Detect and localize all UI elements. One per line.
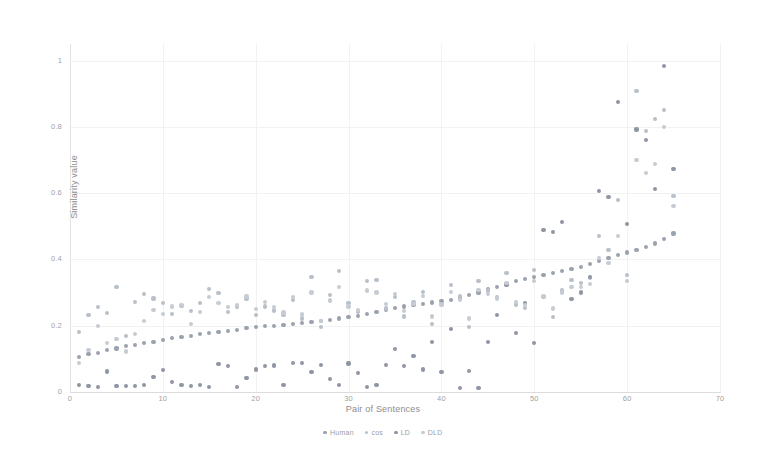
data-point-dld <box>124 349 128 353</box>
data-point-human <box>634 248 638 252</box>
data-point-dld <box>77 361 81 365</box>
data-point-human <box>467 293 471 297</box>
data-point-cos <box>569 278 573 282</box>
data-point-cos <box>77 330 81 334</box>
data-point-dld <box>541 294 545 298</box>
gridline-vertical <box>163 44 164 392</box>
data-point-ld <box>616 100 620 104</box>
legend-item-ld[interactable]: LD <box>394 429 410 436</box>
gridline-horizontal <box>70 326 720 327</box>
data-point-cos <box>393 295 397 299</box>
data-point-dld <box>235 303 239 307</box>
gridline-horizontal <box>70 259 720 260</box>
data-point-cos <box>411 300 415 304</box>
data-point-human <box>86 352 90 356</box>
data-point-ld <box>151 375 155 379</box>
legend-item-human[interactable]: Human <box>323 429 353 436</box>
data-point-cos <box>671 194 675 198</box>
legend-item-dld[interactable]: DLD <box>421 429 442 436</box>
data-point-ld <box>421 367 425 371</box>
data-point-ld <box>356 371 360 375</box>
x-axis-tick-label: 60 <box>612 394 642 403</box>
data-point-dld <box>560 290 564 294</box>
gridline-vertical <box>256 44 257 392</box>
gridline-vertical <box>441 44 442 392</box>
data-point-ld <box>365 385 369 389</box>
data-point-ld <box>514 331 518 335</box>
data-point-cos <box>597 234 601 238</box>
data-point-dld <box>374 290 378 294</box>
data-point-human <box>337 316 341 320</box>
data-point-human <box>124 344 128 348</box>
data-point-cos <box>170 312 174 316</box>
data-point-cos <box>402 314 406 318</box>
data-point-human <box>300 321 304 325</box>
data-point-cos <box>142 292 146 296</box>
data-point-dld <box>216 301 220 305</box>
data-point-human <box>226 329 230 333</box>
data-point-dld <box>514 300 518 304</box>
data-point-dld <box>179 303 183 307</box>
data-point-cos <box>653 117 657 121</box>
data-point-cos <box>486 288 490 292</box>
gridline-vertical <box>534 44 535 392</box>
data-point-dld <box>170 304 174 308</box>
data-point-cos <box>133 300 137 304</box>
data-point-cos <box>606 248 610 252</box>
data-point-dld <box>244 294 248 298</box>
data-point-ld <box>142 383 146 387</box>
data-point-cos <box>374 278 378 282</box>
data-point-ld <box>198 383 202 387</box>
data-point-human <box>235 328 239 332</box>
data-point-dld <box>198 310 202 314</box>
y-axis-tick-label: 1 <box>22 56 62 65</box>
data-point-human <box>569 267 573 271</box>
gridline-vertical <box>349 44 350 392</box>
data-point-ld <box>300 361 304 365</box>
data-point-human <box>216 330 220 334</box>
data-point-cos <box>644 129 648 133</box>
data-point-dld <box>504 281 508 285</box>
legend-item-cos[interactable]: cos <box>365 429 383 436</box>
data-point-human <box>504 282 508 286</box>
data-point-ld <box>495 313 499 317</box>
data-point-human <box>402 304 406 308</box>
data-point-dld <box>653 162 657 166</box>
data-point-cos <box>124 334 128 338</box>
data-point-dld <box>319 319 323 323</box>
data-point-human <box>105 348 109 352</box>
data-point-cos <box>244 297 248 301</box>
data-point-cos <box>309 275 313 279</box>
data-point-dld <box>476 288 480 292</box>
gridline-horizontal <box>70 61 720 62</box>
data-point-dld <box>523 303 527 307</box>
data-point-ld <box>449 327 453 331</box>
chart-legend: HumancosLDDLD <box>0 429 766 436</box>
data-point-ld <box>653 187 657 191</box>
data-point-dld <box>384 302 388 306</box>
data-point-cos <box>384 306 388 310</box>
data-point-human <box>365 312 369 316</box>
data-point-dld <box>328 298 332 302</box>
legend-marker-icon <box>394 431 398 435</box>
data-point-dld <box>226 305 230 309</box>
data-point-dld <box>365 288 369 292</box>
data-point-cos <box>207 287 211 291</box>
data-point-cos <box>495 295 499 299</box>
data-point-dld <box>114 337 118 341</box>
data-point-ld <box>430 340 434 344</box>
data-point-ld <box>124 384 128 388</box>
x-axis-title: Pair of Sentences <box>0 404 766 414</box>
data-point-dld <box>430 314 434 318</box>
y-axis-tick-label: 0.2 <box>22 321 62 330</box>
data-point-dld <box>105 341 109 345</box>
data-point-human <box>244 326 248 330</box>
x-axis-line <box>70 392 721 393</box>
data-point-cos <box>235 305 239 309</box>
data-point-ld <box>96 385 100 389</box>
data-point-dld <box>421 294 425 298</box>
data-point-human <box>588 262 592 266</box>
data-point-dld <box>393 292 397 296</box>
y-axis-tick-label: 0.8 <box>22 122 62 131</box>
data-point-human <box>319 319 323 323</box>
